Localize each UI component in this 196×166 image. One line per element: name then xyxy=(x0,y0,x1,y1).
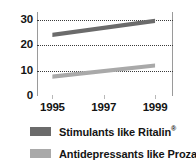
series-band-antidepressants xyxy=(52,63,155,78)
legend-item-stimulants: Stimulants like Ritalin® xyxy=(0,120,196,142)
legend-label-antidepressants: Antidepressants like Prozac® xyxy=(59,147,196,160)
y-tick-label-30: 30 xyxy=(3,14,33,25)
data-series-group xyxy=(37,12,173,96)
registered-trademark-icon: ® xyxy=(171,125,176,132)
y-axis: 30 20 10 0 xyxy=(0,12,33,96)
x-tick-mark-1997 xyxy=(104,95,105,99)
y-tick-label-0: 0 xyxy=(3,90,33,101)
x-tick-label-1999: 1999 xyxy=(133,101,177,113)
legend-swatch-stimulants xyxy=(30,127,51,136)
legend-label-stimulants: Stimulants like Ritalin® xyxy=(59,125,176,138)
x-tick-label-1995: 1995 xyxy=(30,101,74,113)
y-tick-label-10: 10 xyxy=(3,65,33,76)
x-axis: 1995 1997 1999 xyxy=(37,99,173,115)
y-tick-label-20: 20 xyxy=(3,39,33,50)
chart-legend: Stimulants like Ritalin® Antidepressants… xyxy=(0,120,196,164)
series-band-stimulants xyxy=(52,19,155,37)
chart-figure: 30 20 10 0 1995 1997 1999 Stimulants lik… xyxy=(0,0,196,166)
x-tick-label-1997: 1997 xyxy=(82,101,126,113)
x-tick-mark-1999 xyxy=(155,95,156,99)
legend-item-antidepressants: Antidepressants like Prozac® xyxy=(0,142,196,164)
plot-area xyxy=(37,12,173,96)
legend-swatch-antidepressants xyxy=(30,149,51,158)
x-tick-mark-1995 xyxy=(52,95,53,99)
